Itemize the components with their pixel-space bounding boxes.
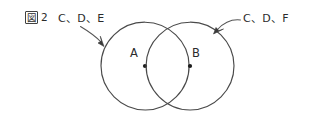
figure-caption-number: 2	[41, 11, 48, 23]
figure-caption: 図 2	[26, 11, 48, 24]
left-annotation-arrow-head	[98, 36, 104, 46]
left-annotation-arrow-line	[81, 27, 102, 43]
right-annotation-text: C、D、F	[243, 12, 289, 25]
figure-diagram: 図 2 A B C、D、E C、D、F	[0, 0, 314, 120]
right-circle-group: B	[146, 22, 234, 110]
left-annotation-group: C、D、E	[58, 12, 105, 47]
figure-container: 図 2 A B C、D、E C、D、F	[0, 0, 314, 120]
right-circle-center-dot	[188, 64, 192, 68]
right-circle-label: B	[192, 46, 200, 60]
left-annotation-text: C、D、E	[58, 12, 105, 25]
left-circle-group: A	[101, 22, 189, 110]
left-circle-label: A	[130, 46, 138, 60]
right-annotation-arrow-line	[218, 20, 241, 30]
right-annotation-group: C、D、F	[214, 12, 289, 34]
figure-caption-glyph: 図	[27, 12, 37, 23]
